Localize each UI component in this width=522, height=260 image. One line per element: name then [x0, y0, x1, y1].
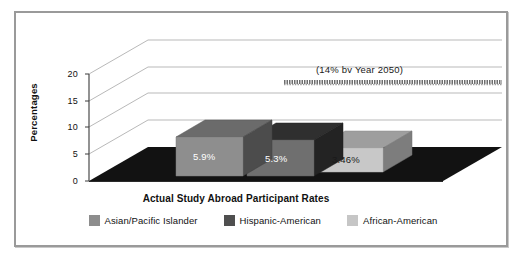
legend-swatch-icon — [89, 215, 100, 226]
reference-line — [284, 82, 502, 85]
chart-frame: 20 15 10 5 0 Percentages (14% bv Year 20… — [14, 11, 508, 247]
bar-asian-pacific-islander[interactable] — [176, 120, 272, 176]
legend-entry-hispanic-american[interactable]: Hispanic-American — [224, 215, 321, 226]
bar-value-asian-pacific-islander: 5.9% — [193, 151, 215, 162]
y-tick-20: 20 — [58, 69, 78, 79]
legend-label: African-American — [363, 215, 437, 226]
chart-figure: 20 15 10 5 0 Percentages (14% bv Year 20… — [0, 0, 522, 260]
y-tick-15: 15 — [58, 96, 78, 106]
chart-legend: Asian/Pacific Islander Hispanic-American… — [16, 215, 510, 226]
y-tick-5: 5 — [58, 149, 78, 159]
legend-label: Hispanic-American — [240, 215, 321, 226]
y-tick-0: 0 — [58, 176, 78, 186]
x-axis-title: Actual Study Abroad Participant Rates — [76, 193, 396, 204]
y-tick-10: 10 — [58, 122, 78, 132]
legend-swatch-icon — [224, 215, 235, 226]
bar-value-hispanic-american: 5.3% — [265, 153, 287, 164]
legend-entry-african-american[interactable]: African-American — [347, 215, 437, 226]
bar-value-african-american: 3.46% — [332, 154, 360, 165]
legend-entry-asian-pacific-islander[interactable]: Asian/Pacific Islander — [89, 215, 198, 226]
chart-canvas — [16, 13, 510, 249]
y-axis-title: Percentages — [28, 73, 39, 153]
reference-annotation-label: (14% bv Year 2050) — [316, 64, 403, 75]
y-axis — [85, 74, 89, 181]
legend-swatch-icon — [347, 215, 358, 226]
plot-area: 20 15 10 5 0 Percentages (14% bv Year 20… — [16, 13, 510, 249]
legend-label: Asian/Pacific Islander — [105, 215, 198, 226]
